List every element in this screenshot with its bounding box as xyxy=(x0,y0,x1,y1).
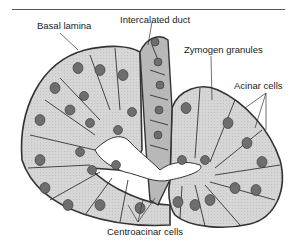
label-centroacinar-cells: Centroacinar cells xyxy=(107,226,183,237)
label-basal-lamina: Basal lamina xyxy=(37,20,91,31)
label-acinar-cells: Acinar cells xyxy=(234,80,283,91)
label-intercalated-duct: Intercalated duct xyxy=(120,14,190,25)
label-zymogen-granules: Zymogen granules xyxy=(184,44,263,55)
acinus-illustration xyxy=(0,0,297,247)
